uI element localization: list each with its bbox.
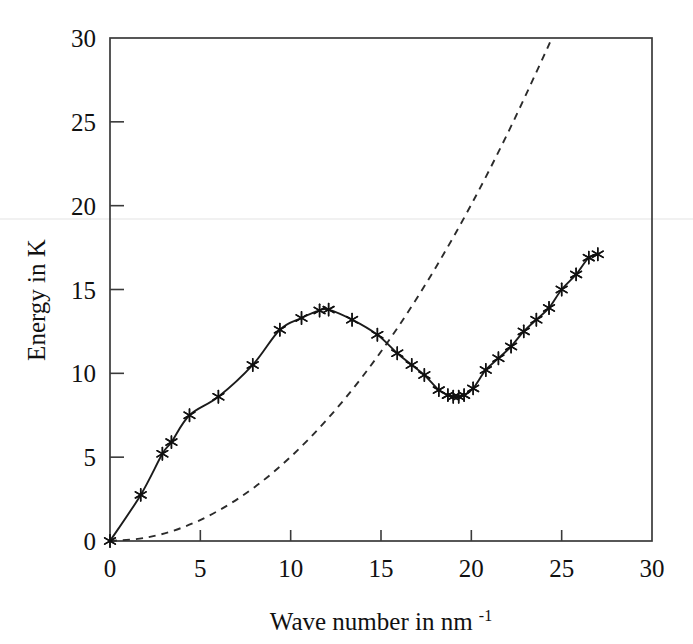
y-axis-tick-labels: 051015202530 (71, 25, 96, 555)
data-point-marker (372, 329, 383, 341)
y-tick-label: 15 (71, 277, 96, 304)
y-axis-title: Energy in K (23, 239, 50, 361)
dispersion-curve (110, 254, 598, 541)
x-axis-title: Wave number in nm -1 (270, 607, 492, 635)
data-point-marker (296, 312, 307, 324)
x-axis-ticks (200, 530, 561, 541)
x-axis-tick-labels: 051015202530 (104, 555, 665, 582)
data-point-marker (213, 391, 224, 403)
y-tick-label: 20 (71, 193, 96, 220)
x-tick-label: 25 (549, 555, 574, 582)
y-tick-label: 10 (71, 360, 96, 387)
free-particle-parabola-curve (110, 38, 552, 541)
data-point-marker (347, 313, 358, 325)
y-tick-label: 25 (71, 109, 96, 136)
x-tick-label: 30 (640, 555, 665, 582)
x-tick-label: 15 (369, 555, 394, 582)
dispersion-chart-figure: 051015202530 051015202530 Wave number in… (0, 0, 693, 644)
data-point-markers (105, 248, 604, 547)
y-tick-label: 30 (71, 25, 96, 52)
x-tick-label: 10 (278, 555, 303, 582)
x-tick-label: 5 (194, 555, 207, 582)
data-point-marker (406, 359, 417, 371)
y-tick-label: 0 (84, 528, 97, 555)
x-tick-label: 20 (459, 555, 484, 582)
y-axis-ticks (110, 122, 124, 457)
x-tick-label: 0 (104, 555, 117, 582)
y-tick-label: 5 (84, 444, 97, 471)
plot-frame (110, 38, 652, 541)
chart-canvas: 051015202530 051015202530 Wave number in… (0, 0, 693, 644)
